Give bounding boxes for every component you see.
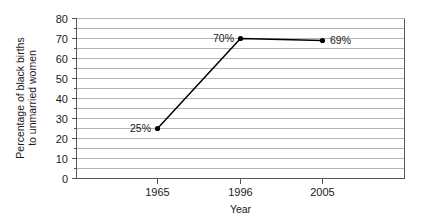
xtick-label-2005: 2005 <box>310 186 334 198</box>
ytick-label-20: 20 <box>56 133 68 145</box>
data-point-1965 <box>155 126 160 131</box>
y-axis-title-line-2: to unmarried women <box>26 50 38 146</box>
y-axis-tick-labels: 80 70 60 50 40 30 20 10 0 <box>56 13 68 185</box>
ytick-label-70: 70 <box>56 33 68 45</box>
ytick-label-0: 0 <box>62 173 68 185</box>
ytick-label-80: 80 <box>56 13 68 25</box>
x-axis-title: Year <box>230 203 252 215</box>
chart-container: 80 70 60 50 40 30 20 10 0 Percentage of … <box>0 0 428 221</box>
ytick-label-50: 50 <box>56 73 68 85</box>
data-label-1996: 70% <box>213 32 234 44</box>
data-point-2005 <box>320 38 325 43</box>
data-point-1996 <box>238 36 243 41</box>
ytick-label-30: 30 <box>56 113 68 125</box>
y-axis-title: Percentage of black births to unmarried … <box>14 37 38 158</box>
xtick-label-1965: 1965 <box>145 186 169 198</box>
y-axis-title-line-1: Percentage of black births <box>14 37 26 158</box>
line-chart: 80 70 60 50 40 30 20 10 0 Percentage of … <box>0 0 428 221</box>
ytick-label-40: 40 <box>56 93 68 105</box>
ytick-label-10: 10 <box>56 153 68 165</box>
data-label-1965: 25% <box>130 122 151 134</box>
data-label-2005: 69% <box>330 34 351 46</box>
xtick-label-1996: 1996 <box>228 186 252 198</box>
ytick-label-60: 60 <box>56 53 68 65</box>
